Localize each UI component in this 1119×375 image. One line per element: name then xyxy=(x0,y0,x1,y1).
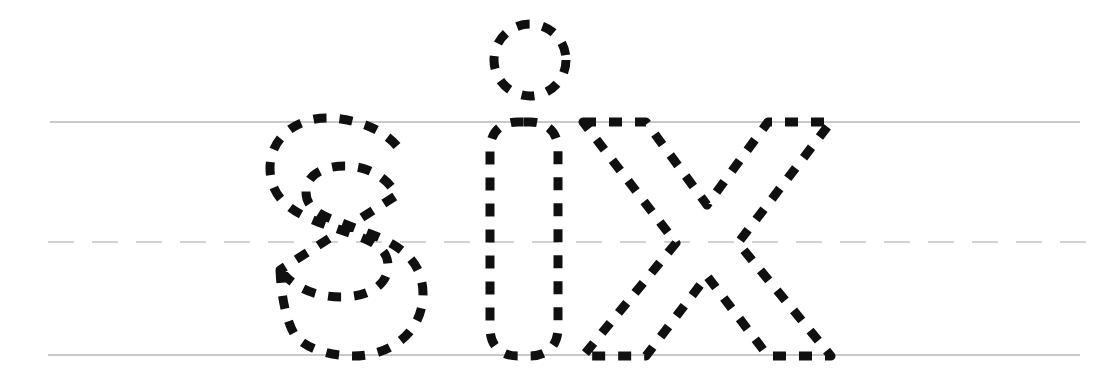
glyph-letter-i xyxy=(490,24,566,356)
tracing-worksheet-page: Handwriting tracing worksheet showing th… xyxy=(0,0,1119,375)
glyph-letter-s xyxy=(270,118,423,356)
worksheet-canvas xyxy=(0,0,1119,375)
letter-x-outline xyxy=(583,122,831,356)
glyph-letter-x xyxy=(583,122,831,356)
guideline-group xyxy=(48,122,1086,355)
letter-i-stem-outline xyxy=(490,122,558,356)
letter-s-outline xyxy=(270,118,423,356)
letter-i-tittle-dot-outline xyxy=(494,24,566,96)
